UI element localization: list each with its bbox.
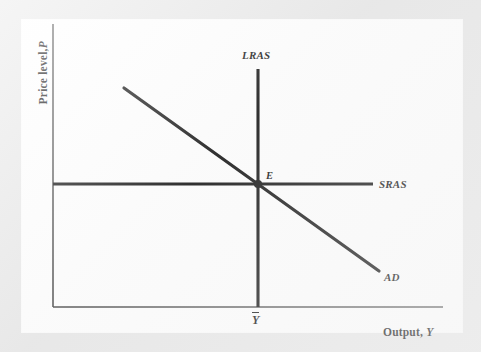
equilibrium-point-marker — [254, 180, 262, 188]
x-axis-label: Output, Y — [383, 327, 433, 339]
y-axis-label-text: Price level, — [37, 48, 49, 104]
x-axis-label-variable: Y — [426, 326, 433, 338]
plot-canvas — [0, 0, 481, 352]
x-axis-label-text: Output, — [383, 326, 423, 338]
potential-output-tick-label: Y — [252, 312, 260, 326]
y-axis-label: Price level,P — [38, 18, 50, 128]
potential-output-overbar: Y — [252, 312, 260, 326]
figure-frame: Price level,P Output, Y LRAS SRAS AD E Y — [0, 0, 481, 352]
y-axis-label-variable: P — [37, 41, 49, 48]
ad-curve-label: AD — [384, 272, 400, 283]
ad-curve — [124, 88, 379, 271]
sras-curve-label: SRAS — [379, 179, 407, 190]
lras-curve-label: LRAS — [242, 50, 270, 61]
equilibrium-point-label: E — [266, 171, 273, 182]
